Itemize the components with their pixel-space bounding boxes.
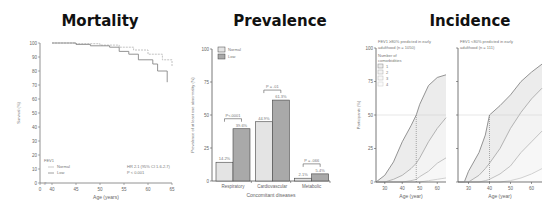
svg-text:Normal: Normal [57,164,70,169]
svg-text:Age (years): Age (years) [93,194,119,200]
mortality-chart: 01020304050607080901000404550556065//Age… [16,41,175,201]
svg-text:adulthood (n = 1050): adulthood (n = 1050) [378,45,416,50]
svg-text:25: 25 [204,146,210,151]
svg-text:45: 45 [73,187,79,192]
svg-text:0: 0 [34,181,37,186]
svg-text:Low: Low [228,54,235,59]
svg-text:61.3%: 61.3% [275,94,287,99]
svg-text:100: 100 [365,46,373,51]
svg-text:2.1%: 2.1% [299,172,309,177]
svg-text:44.9%: 44.9% [258,116,270,121]
svg-text:25: 25 [368,146,374,151]
svg-text:Survival (%): Survival (%) [16,102,21,124]
bar [295,178,312,181]
svg-text:HR 2.1 (95% CI 1.6-2.7): HR 2.1 (95% CI 1.6-2.7) [127,164,171,169]
svg-text:39.6%: 39.6% [236,123,248,128]
svg-text:100: 100 [201,47,209,52]
svg-text:14.2%: 14.2% [219,156,231,161]
charts-canvas: 01020304050607080901000404550556065//Age… [0,0,559,211]
svg-text:70: 70 [32,83,38,88]
prevalence-chart: 0255075100Prevalence of at least one abn… [190,47,330,199]
svg-text:10: 10 [32,167,38,172]
svg-text:adulthood (n = 111): adulthood (n = 111) [460,45,495,50]
svg-text:0: 0 [206,179,209,184]
bar [233,129,250,181]
svg-text:0: 0 [370,180,373,185]
svg-text:Low: Low [57,170,64,175]
svg-text:5.4%: 5.4% [316,168,326,173]
svg-text:50: 50 [32,111,38,116]
svg-text:50: 50 [368,113,374,118]
svg-text:30: 30 [466,186,472,191]
svg-text:Age (year): Age (year) [399,193,423,199]
bar [312,174,329,181]
svg-text:Concomitant diseases: Concomitant diseases [246,192,296,198]
svg-text:50: 50 [417,186,423,191]
incidence-chart-normal: 0255075100Participants (%)30405060Age (y… [356,39,446,199]
svg-text:Age (year): Age (year) [488,193,512,199]
bar [272,100,289,181]
svg-text:FEV1 ≥80% predicted in early: FEV1 ≥80% predicted in early [378,39,431,44]
svg-text:Participants (%): Participants (%) [356,100,361,129]
svg-text:FEV1 <80% predicted in early: FEV1 <80% predicted in early [460,39,513,44]
svg-text:30: 30 [32,139,38,144]
svg-text:60: 60 [32,97,38,102]
svg-text:comorbidities: comorbidities [378,58,402,63]
svg-text:80: 80 [32,69,38,74]
svg-text:20: 20 [32,153,38,158]
svg-text:40: 40 [32,125,38,130]
svg-text:P = .01: P = .01 [266,84,279,89]
svg-text:Respiratory: Respiratory [221,184,245,189]
svg-text:40: 40 [49,187,55,192]
bar [255,122,272,181]
svg-text:100: 100 [29,41,37,46]
svg-text:65: 65 [169,187,175,192]
svg-text:1: 1 [386,64,389,69]
svg-text:3: 3 [386,76,389,81]
svg-text:Prevalence of at least one abn: Prevalence of at least one abnormality (… [190,77,195,153]
svg-text:30: 30 [382,186,388,191]
svg-text://: // [44,181,47,186]
svg-text:60: 60 [145,187,151,192]
svg-text:2: 2 [386,70,389,75]
svg-text:P < 0.001: P < 0.001 [127,170,145,175]
incidence-chart-low: 30405060Age (year)FEV1 <80% predicted in… [456,39,542,199]
svg-text:55: 55 [121,187,127,192]
svg-text:P = .066: P = .066 [304,158,320,163]
bar [216,162,233,181]
svg-text:0: 0 [39,187,42,192]
svg-text:60: 60 [529,186,535,191]
svg-text:Metabolic: Metabolic [302,184,322,189]
svg-text:90: 90 [32,55,38,60]
svg-text:Normal: Normal [228,47,241,52]
svg-text:50: 50 [508,186,514,191]
svg-text:75: 75 [204,80,210,85]
svg-text:50: 50 [204,113,210,118]
svg-text:FEV1: FEV1 [44,158,55,163]
svg-text:60: 60 [435,186,441,191]
svg-text:40: 40 [400,186,406,191]
svg-text:75: 75 [368,79,374,84]
svg-text:40: 40 [487,186,493,191]
svg-text:4: 4 [386,82,389,87]
svg-text:P<.0001: P<.0001 [225,113,241,118]
svg-text:50: 50 [97,187,103,192]
svg-text:Cardiovascular: Cardiovascular [257,184,288,189]
